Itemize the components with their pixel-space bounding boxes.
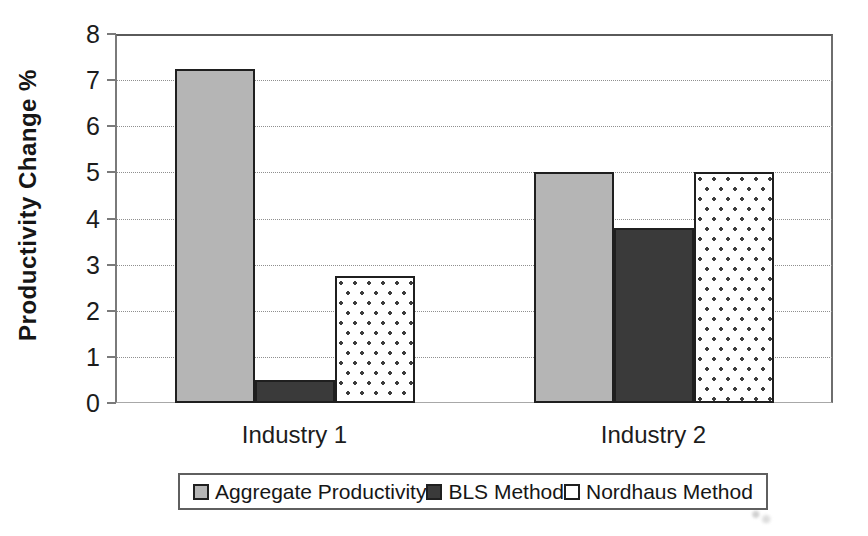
legend-item: Aggregate Productivity — [193, 480, 426, 504]
y-axis-tick — [107, 79, 116, 81]
y-tick-label: 6 — [60, 113, 100, 139]
chart-canvas: Productivity Change % 012345678Industry … — [0, 0, 868, 536]
y-tick-label: 1 — [60, 344, 100, 370]
x-category-label: Industry 2 — [534, 421, 774, 449]
legend: Aggregate ProductivityBLS MethodNordhaus… — [178, 473, 768, 510]
bar — [255, 380, 335, 403]
y-tick-label: 8 — [60, 21, 100, 47]
y-tick-label: 5 — [60, 159, 100, 185]
y-tick-label: 7 — [60, 67, 100, 93]
x-category-label: Industry 1 — [175, 421, 415, 449]
y-axis-tick — [107, 402, 116, 404]
y-tick-label: 2 — [60, 298, 100, 324]
legend-swatch-icon — [564, 484, 580, 500]
y-axis-tick — [107, 171, 116, 173]
bar — [534, 172, 614, 403]
legend-item: Nordhaus Method — [564, 480, 753, 504]
legend-swatch-icon — [426, 484, 442, 500]
y-tick-label: 4 — [60, 206, 100, 232]
y-axis-tick — [107, 218, 116, 220]
legend-label: Nordhaus Method — [586, 480, 753, 504]
y-axis-tick — [107, 264, 116, 266]
bar — [335, 276, 415, 403]
bar — [614, 228, 694, 403]
legend-label: BLS Method — [448, 480, 564, 504]
y-axis-tick — [107, 356, 116, 358]
legend-swatch-icon — [193, 484, 209, 500]
y-tick-label: 0 — [60, 390, 100, 416]
y-tick-label: 3 — [60, 252, 100, 278]
legend-label: Aggregate Productivity — [215, 480, 426, 504]
scan-smudge — [748, 508, 774, 524]
bar — [175, 69, 255, 403]
y-axis-title: Productivity Change % — [14, 55, 42, 355]
bar — [694, 172, 774, 403]
y-axis-tick — [107, 310, 116, 312]
y-axis-tick — [107, 33, 116, 35]
legend-item: BLS Method — [426, 480, 564, 504]
y-axis-tick — [107, 125, 116, 127]
